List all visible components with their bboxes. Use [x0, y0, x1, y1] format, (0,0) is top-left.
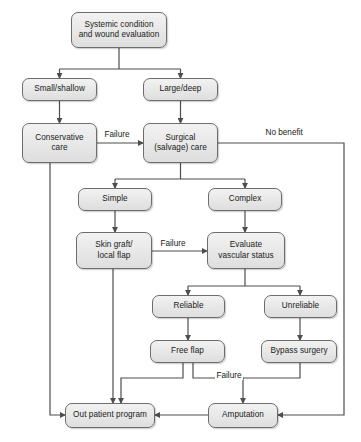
- node-amputation-label: Amputation: [212, 410, 274, 421]
- node-systemic-condition-line1: Systemic condition: [75, 20, 163, 31]
- node-reliable[interactable]: Reliable: [152, 295, 225, 318]
- node-small-shallow[interactable]: Small/shallow: [22, 78, 97, 101]
- node-evaluate-vascular-status-line1: Evaluate: [211, 240, 281, 251]
- node-amputation[interactable]: Amputation: [208, 403, 278, 428]
- node-surgical-salvage-care[interactable]: Surgical (salvage) care: [143, 123, 218, 163]
- node-unreliable-label: Unreliable: [268, 301, 333, 312]
- node-free-flap[interactable]: Free flap: [150, 340, 225, 363]
- edge-freeflap-outpatient: [121, 363, 183, 403]
- node-unreliable[interactable]: Unreliable: [264, 295, 337, 318]
- node-skin-graft-local-flap[interactable]: Skin graft/ local flap: [76, 232, 152, 269]
- node-evaluate-vascular-status-line2: vascular status: [211, 251, 281, 262]
- node-evaluate-vascular-status[interactable]: Evaluate vascular status: [207, 232, 285, 269]
- node-conservative-care-line2: care: [26, 143, 93, 154]
- flowchart-canvas: Systemic condition and wound evaluation …: [0, 0, 361, 442]
- edge-label-no-benefit: No benefit: [264, 128, 304, 137]
- node-systemic-condition-line2: and wound evaluation: [75, 30, 163, 41]
- node-skin-graft-local-flap-line2: local flap: [80, 251, 148, 262]
- node-small-shallow-label: Small/shallow: [26, 84, 93, 95]
- node-complex[interactable]: Complex: [208, 188, 282, 211]
- node-skin-graft-local-flap-line1: Skin graft/: [80, 240, 148, 251]
- edge-conservative-outpatient: [50, 163, 65, 415]
- node-out-patient-program[interactable]: Out patient program: [65, 403, 155, 428]
- node-large-deep-label: Large/deep: [147, 84, 214, 95]
- node-simple[interactable]: Simple: [78, 188, 152, 211]
- edge-label-failure-amputation: Failure: [215, 371, 243, 380]
- edge-label-failure-skingraft-evaluate: Failure: [159, 239, 187, 248]
- edge-label-failure-conservative-surgical: Failure: [103, 130, 131, 139]
- flowchart-connectors: [0, 0, 361, 442]
- node-complex-label: Complex: [212, 194, 278, 205]
- node-conservative-care-line1: Conservative: [26, 133, 93, 144]
- edge-bypass-amputation: [243, 363, 300, 378]
- node-conservative-care[interactable]: Conservative care: [22, 123, 97, 163]
- node-bypass-surgery[interactable]: Bypass surgery: [261, 340, 337, 363]
- node-systemic-condition[interactable]: Systemic condition and wound evaluation: [71, 12, 167, 48]
- node-out-patient-program-label: Out patient program: [69, 410, 151, 421]
- node-free-flap-label: Free flap: [154, 346, 221, 357]
- node-large-deep[interactable]: Large/deep: [143, 78, 218, 101]
- node-reliable-label: Reliable: [156, 301, 221, 312]
- node-surgical-salvage-care-line2: (salvage) care: [147, 143, 214, 154]
- node-bypass-surgery-label: Bypass surgery: [265, 346, 333, 357]
- edge-freeflap-amputation: [193, 363, 243, 403]
- node-simple-label: Simple: [82, 194, 148, 205]
- node-surgical-salvage-care-line1: Surgical: [147, 133, 214, 144]
